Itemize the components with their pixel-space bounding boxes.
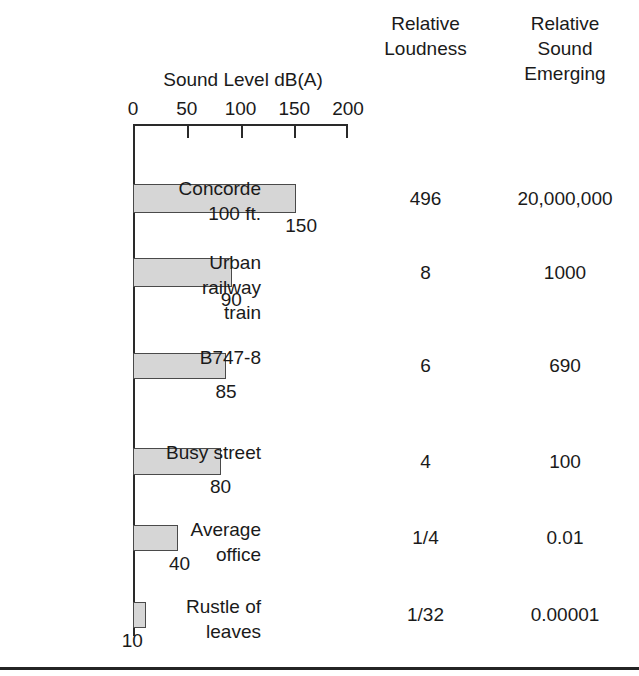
cell-relative-sound-emerging-5: 0.00001 [495,603,635,627]
x-tick-label-100: 100 [218,98,264,120]
bar-value-label-5: 10 [122,630,143,652]
column-header-relative-sound-emerging: Relative Sound Emerging [495,11,635,86]
x-axis-tick-labels: 050100150200 [0,98,400,122]
x-tick-mark-200 [346,124,348,138]
bar-value-label-1: 90 [221,289,242,311]
bar-value-label-3: 80 [210,476,231,498]
column-header-relative-loudness: Relative Loudness [358,11,493,61]
x-tick-label-0: 0 [110,98,156,120]
x-tick-label-200: 200 [325,98,371,120]
cell-relative-sound-emerging-1: 1000 [495,261,635,285]
cell-relative-sound-emerging-2: 690 [495,354,635,378]
category-label-0: Concorde 100 ft. [101,176,261,226]
cell-relative-loudness-4: 1/4 [358,526,493,550]
cell-relative-sound-emerging-0: 20,000,000 [495,187,635,211]
cell-relative-loudness-2: 6 [358,354,493,378]
x-axis-title: Sound Level dB(A) [130,68,356,92]
cell-relative-loudness-5: 1/32 [358,603,493,627]
plot-area: Concorde 100 ft.Urban railway trainB747-… [133,124,348,636]
bottom-divider [0,667,639,670]
bar-value-label-0: 150 [285,215,317,237]
bar-value-label-4: 40 [169,553,190,575]
x-tick-label-150: 150 [271,98,317,120]
bar-value-label-2: 85 [215,381,236,403]
x-tick-label-50: 50 [164,98,210,120]
category-label-2: B747-8 [101,345,261,370]
cell-relative-loudness-0: 496 [358,187,493,211]
cell-relative-loudness-3: 4 [358,450,493,474]
sound-level-chart-figure: Relative Loudness Relative Sound Emergin… [0,0,639,676]
cell-relative-loudness-1: 8 [358,261,493,285]
x-tick-mark-150 [294,124,296,138]
cell-relative-sound-emerging-4: 0.01 [495,526,635,550]
cell-relative-sound-emerging-3: 100 [495,450,635,474]
category-label-1: Urban railway train [101,250,261,325]
category-label-3: Busy street [101,440,261,465]
